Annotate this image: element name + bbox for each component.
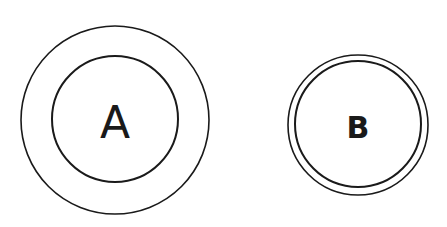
circle-b-label: B [347,110,370,145]
diagram-canvas: A B [0,0,447,227]
circle-group-b: B [288,55,428,195]
circle-group-a: A [21,26,209,214]
circle-a-label: A [100,97,130,148]
